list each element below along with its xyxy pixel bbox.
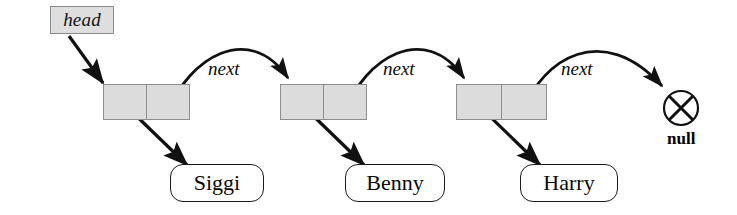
node-data-cell	[280, 84, 324, 120]
head-pointer-box: head	[50, 6, 114, 34]
node-value-label: Siggi	[194, 170, 240, 196]
node-value-label: Harry	[543, 170, 594, 196]
node-value-label: Benny	[366, 170, 423, 196]
null-circle-x-icon	[664, 91, 698, 125]
list-node	[456, 84, 548, 120]
head-pointer-label: head	[63, 9, 101, 31]
next-edge-label: next	[561, 58, 593, 80]
null-label: null	[667, 129, 695, 149]
node-value-box: Siggi	[170, 164, 264, 202]
list-node	[280, 84, 368, 120]
next-edge-label: next	[383, 58, 415, 80]
node-next-cell	[323, 84, 367, 120]
node-value-box: Benny	[345, 164, 445, 202]
node-next-cell	[501, 84, 547, 120]
node-value-box: Harry	[520, 164, 618, 202]
node-data-cell	[456, 84, 502, 120]
next-edge-label: next	[208, 58, 240, 80]
list-node	[103, 84, 191, 120]
linked-list-diagram: head next next next Siggi Benny Harry nu…	[0, 0, 737, 215]
head-pointer-arrow	[69, 36, 103, 83]
node-data-cell	[103, 84, 147, 120]
node-next-cell	[146, 84, 190, 120]
